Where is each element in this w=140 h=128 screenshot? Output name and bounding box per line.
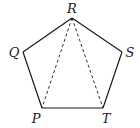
diagonal-rt xyxy=(72,18,103,108)
vertex-label-s: S xyxy=(126,45,135,60)
vertex-label-q: Q xyxy=(9,45,20,60)
edge-pq xyxy=(23,52,42,108)
edge-st xyxy=(103,52,122,108)
diagonal-rp xyxy=(42,18,72,108)
vertex-label-r: R xyxy=(66,1,77,16)
pentagon-diagram: R Q S P T xyxy=(0,0,140,128)
edge-rs xyxy=(72,18,122,52)
edge-qr xyxy=(23,18,72,52)
vertex-label-t: T xyxy=(102,111,112,126)
vertex-label-p: P xyxy=(31,111,41,126)
pentagon-outline xyxy=(23,18,122,108)
diagonals xyxy=(42,18,103,108)
